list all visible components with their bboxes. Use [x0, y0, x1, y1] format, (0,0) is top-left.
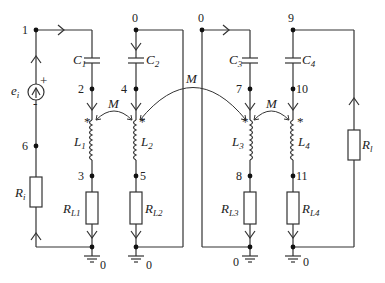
- dot-marker-L3: *: [242, 114, 249, 129]
- svg-text:4: 4: [121, 82, 127, 96]
- resistor-RL4: [287, 192, 299, 224]
- svg-text:9: 9: [288, 11, 294, 25]
- label-L4: L4: [297, 134, 310, 151]
- node-labels: 1 2 3 4 5 6 7 8 9 10 11 0 0 0 0 0 0: [22, 11, 309, 272]
- label-M23: M: [185, 71, 198, 86]
- ground-icon: [242, 256, 258, 262]
- label-RL2: RL2: [144, 201, 163, 218]
- svg-text:7: 7: [236, 82, 242, 96]
- coupling-arc-M34: [254, 111, 289, 120]
- label-C3: C3: [229, 52, 243, 69]
- inductor-L4: [291, 120, 294, 160]
- label-M12: M: [107, 96, 120, 111]
- ground-icon: [84, 256, 100, 262]
- circuit-diagram: 1 2 3 4 5 6 7 8 9 10 11 0 0 0 0 0 0 ei +…: [0, 0, 385, 283]
- loop-1: [28, 25, 100, 256]
- svg-text:8: 8: [236, 169, 242, 183]
- label-ei: ei: [11, 83, 20, 100]
- label-L1: L1: [73, 134, 86, 151]
- label-Rl: Rl: [361, 137, 373, 154]
- svg-text:11: 11: [296, 169, 308, 183]
- label-M34: M: [265, 96, 278, 111]
- ground-icon: [128, 256, 144, 262]
- label-RL3: RL3: [220, 201, 239, 218]
- dot-marker-L1: *: [84, 114, 91, 129]
- label-RL1: RL1: [62, 201, 80, 218]
- svg-text:6: 6: [22, 139, 28, 153]
- label-Ri: Ri: [14, 185, 26, 202]
- circuit-svg: 1 2 3 4 5 6 7 8 9 10 11 0 0 0 0 0 0 ei +…: [0, 0, 385, 283]
- svg-text:1: 1: [22, 23, 28, 37]
- resistor-RL3: [244, 192, 256, 224]
- svg-text:+: +: [40, 73, 47, 88]
- svg-text:2: 2: [78, 82, 84, 96]
- svg-text:3: 3: [78, 169, 84, 183]
- label-C1: C1: [73, 52, 86, 69]
- label-C4: C4: [302, 52, 316, 69]
- ground-symbols: [84, 256, 301, 262]
- label-L3: L3: [231, 134, 244, 151]
- resistor-Rl: [348, 130, 360, 160]
- svg-text:0: 0: [303, 255, 309, 269]
- svg-text:0: 0: [146, 258, 152, 272]
- svg-text:0: 0: [233, 255, 239, 269]
- dot-marker-L4: *: [297, 114, 304, 129]
- label-C2: C2: [146, 52, 160, 69]
- label-L2: L2: [140, 134, 153, 151]
- svg-text:0: 0: [132, 11, 138, 25]
- inductor-L3: [250, 120, 253, 160]
- svg-text:5: 5: [140, 169, 146, 183]
- ground-icon: [285, 256, 301, 262]
- resistor-RL2: [130, 192, 142, 224]
- inductor-L2: [134, 120, 137, 160]
- dot-marker-L2: *: [139, 114, 146, 129]
- resistor-RL1: [86, 192, 98, 224]
- loop-4: [285, 30, 360, 256]
- coupling-arc-M12: [96, 111, 132, 120]
- svg-text:10: 10: [296, 82, 308, 96]
- coupling-arc-M23: [140, 88, 246, 121]
- component-labels: ei + - Ri C1 C2 C3 C4 L1 L2 L3 L4 RL1 RL…: [11, 52, 373, 218]
- label-RL4: RL4: [301, 201, 320, 218]
- svg-text:0: 0: [198, 11, 204, 25]
- resistor-Ri: [30, 177, 42, 207]
- svg-text:-: -: [33, 96, 37, 111]
- svg-text:0: 0: [100, 258, 106, 272]
